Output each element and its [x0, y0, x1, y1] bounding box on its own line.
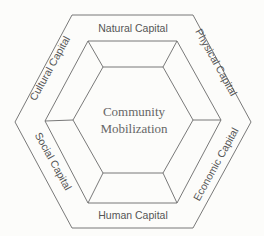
spoke-top-left [88, 41, 103, 67]
label-natural-capital: Natural Capital [98, 22, 167, 34]
center-label-line2: Mobilization [100, 121, 168, 136]
label-cultural-capital: Cultural Capital [27, 34, 72, 103]
hexagon-diagram-svg: Natural Capital Physical Capital Economi… [0, 0, 264, 236]
center-label-line1: Community [103, 104, 166, 119]
inner-hexagon [73, 67, 193, 173]
label-physical-capital: Physical Capital [193, 26, 240, 97]
community-capitals-diagram: Natural Capital Physical Capital Economi… [0, 0, 264, 236]
spoke-bottom-left [88, 173, 103, 203]
label-human-capital: Human Capital [98, 209, 167, 221]
spoke-left [45, 120, 73, 121]
spoke-bottom-right [163, 173, 177, 203]
label-social-capital: Social Capital [33, 130, 75, 192]
spoke-top-right [163, 41, 177, 67]
